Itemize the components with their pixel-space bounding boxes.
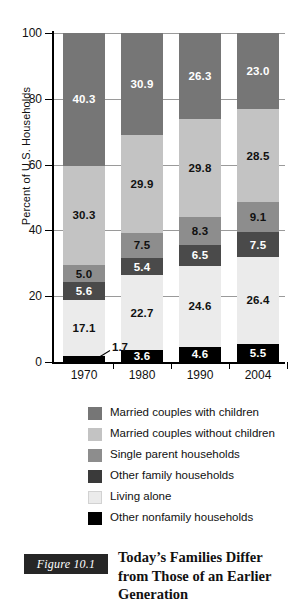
y-axis-line xyxy=(52,31,54,364)
x-axis-label-1990: 1990 xyxy=(170,368,230,382)
segment-value-label: 26.3 xyxy=(179,70,221,82)
bar-segment: 7.5 xyxy=(237,232,279,257)
bar-segment: 23.0 xyxy=(237,33,279,109)
figure-number-badge: Figure 10.1 xyxy=(24,554,108,574)
legend-item: Married couples with children xyxy=(0,404,291,425)
bar-1970: 17.15.65.030.340.3 xyxy=(63,33,105,362)
bar-segment: 8.3 xyxy=(179,217,221,244)
bar-segment: 29.8 xyxy=(179,119,221,217)
legend-label: Married couples with children xyxy=(110,406,259,418)
legend-label: Single parent households xyxy=(110,448,240,460)
stacked-bar-chart: Percent of U.S. Households 020406080100 … xyxy=(0,0,291,400)
legend-label: Living alone xyxy=(110,490,171,502)
y-tick-label: 80 xyxy=(12,93,42,105)
legend-swatch-icon xyxy=(88,428,102,441)
segment-value-label: 9.1 xyxy=(237,211,279,223)
bar-segment: 22.7 xyxy=(121,275,163,350)
segment-value-label: 4.6 xyxy=(179,348,221,360)
y-tick-mark xyxy=(45,296,52,297)
y-tick-label: 40 xyxy=(12,224,42,236)
segment-value-label: 26.4 xyxy=(237,294,279,306)
legend-swatch-icon xyxy=(88,491,102,504)
y-tick-label: 100 xyxy=(12,27,42,39)
segment-value-label: 40.3 xyxy=(63,93,105,105)
segment-value-label: 5.0 xyxy=(63,268,105,280)
y-tick-mark xyxy=(45,362,52,363)
legend-item: Living alone xyxy=(0,488,291,509)
bar-segment: 7.5 xyxy=(121,233,163,258)
bar-segment: 5.6 xyxy=(63,282,105,300)
bar-segment: 5.4 xyxy=(121,258,163,276)
legend-label: Other nonfamily households xyxy=(110,511,253,523)
bar-segment: 26.3 xyxy=(179,33,221,120)
bar-segment: 29.9 xyxy=(121,135,163,233)
legend-swatch-icon xyxy=(88,449,102,462)
legend-label: Married couples without children xyxy=(110,427,275,439)
y-tick-label: 60 xyxy=(12,159,42,171)
segment-value-label: 23.0 xyxy=(237,65,279,77)
bar-segment: 28.5 xyxy=(237,109,279,203)
bar-segment: 6.5 xyxy=(179,245,221,266)
segment-value-label: 22.7 xyxy=(121,307,163,319)
bar-1990: 4.624.66.58.329.826.3 xyxy=(179,33,221,362)
y-tick-label: 20 xyxy=(12,290,42,302)
bar-segment: 26.4 xyxy=(237,257,279,344)
bar-segment: 5.5 xyxy=(237,344,279,362)
segment-value-label: 6.5 xyxy=(179,249,221,261)
bar-segment: 30.9 xyxy=(121,33,163,135)
figure-caption-title: Today’s Families Differ from Those of an… xyxy=(118,548,286,604)
y-tick-label: 0 xyxy=(12,356,42,368)
segment-value-label: 29.8 xyxy=(179,162,221,174)
bar-1980: 3.622.75.47.529.930.9 xyxy=(121,33,163,362)
segment-value-label: 5.6 xyxy=(63,285,105,297)
bar-segment: 17.1 xyxy=(63,300,105,356)
legend-label: Other family households xyxy=(110,469,234,481)
segment-value-label: 24.6 xyxy=(179,300,221,312)
chart-legend: Married couples with childrenMarried cou… xyxy=(0,404,291,530)
segment-value-label: 30.9 xyxy=(121,78,163,90)
legend-item: Married couples without children xyxy=(0,425,291,446)
segment-value-label: 30.3 xyxy=(63,209,105,221)
segment-value-label: 7.5 xyxy=(121,239,163,251)
segment-value-label: 29.9 xyxy=(121,178,163,190)
segment-value-label: 5.5 xyxy=(237,347,279,359)
y-tick-mark xyxy=(45,99,52,100)
bar-segment: 9.1 xyxy=(237,202,279,232)
legend-swatch-icon xyxy=(88,407,102,420)
x-axis-label-2004: 2004 xyxy=(228,368,288,382)
annotation-label: 1.7 xyxy=(112,341,128,353)
y-tick-mark xyxy=(45,33,52,34)
x-axis-label-1970: 1970 xyxy=(54,368,114,382)
legend-item: Single parent households xyxy=(0,446,291,467)
y-tick-mark xyxy=(45,230,52,231)
legend-item: Other family households xyxy=(0,467,291,488)
x-axis-label-1980: 1980 xyxy=(112,368,172,382)
legend-item: Other nonfamily households xyxy=(0,509,291,530)
segment-value-label: 8.3 xyxy=(179,225,221,237)
bar-segment: 5.0 xyxy=(63,265,105,281)
segment-value-label: 5.4 xyxy=(121,261,163,273)
x-tick-mark xyxy=(287,362,288,369)
bar-segment: 30.3 xyxy=(63,166,105,266)
bar-segment: 4.6 xyxy=(179,347,221,362)
segment-value-label: 7.5 xyxy=(237,239,279,251)
segment-value-label: 28.5 xyxy=(237,150,279,162)
bar-2004: 5.526.47.59.128.523.0 xyxy=(237,33,279,362)
bar-segment: 24.6 xyxy=(179,266,221,347)
y-tick-mark xyxy=(45,165,52,166)
segment-value-label: 17.1 xyxy=(63,322,105,334)
bar-segment: 40.3 xyxy=(63,33,105,166)
x-axis-line xyxy=(52,362,285,364)
legend-swatch-icon xyxy=(88,512,102,525)
legend-swatch-icon xyxy=(88,470,102,483)
